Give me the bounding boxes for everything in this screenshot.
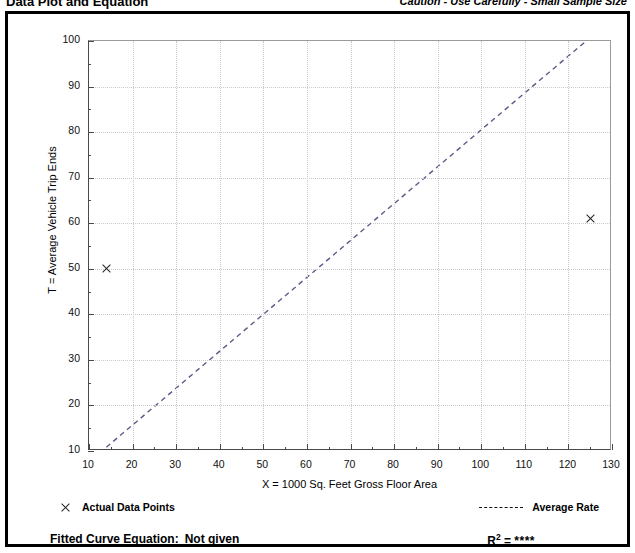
grid-line-vertical (481, 41, 482, 449)
grid-line-horizontal (89, 132, 610, 133)
grid-line-vertical (220, 41, 221, 449)
r-squared-exponent: 2 (496, 532, 501, 542)
x-axis-tick-label: 80 (373, 458, 413, 470)
y-axis-tick (88, 200, 91, 201)
x-axis-tick (547, 447, 548, 450)
grid-line-vertical (133, 41, 134, 449)
x-axis-tick (133, 444, 134, 450)
grid-line-vertical (351, 41, 352, 449)
x-axis-tick-label: 120 (547, 458, 587, 470)
x-axis-tick-label: 60 (286, 458, 326, 470)
x-axis-tick (329, 447, 330, 450)
legend-item-average-rate: Average Rate (479, 501, 599, 513)
y-axis-tick (88, 109, 91, 110)
y-axis-tick (88, 360, 94, 361)
y-axis-tick (88, 405, 94, 406)
grid-line-vertical (176, 41, 177, 449)
grid-line-vertical (438, 41, 439, 449)
y-axis-tick-label: 70 (40, 170, 80, 182)
x-axis-tick (307, 444, 308, 450)
y-axis-tick (88, 246, 91, 247)
y-axis-tick (88, 223, 94, 224)
grid-line-horizontal (89, 223, 610, 224)
y-axis-tick (88, 178, 94, 179)
data-point-marker (585, 213, 596, 224)
x-axis-tick-label: 10 (68, 458, 108, 470)
chart-panel: T = Average Vehicle Trip Ends X = 1000 S… (5, 11, 630, 547)
x-axis-tick (612, 444, 613, 450)
x-axis-title: X = 1000 Sq. Feet Gross Floor Area (88, 478, 611, 490)
x-axis-tick (176, 444, 177, 450)
y-axis-tick (88, 292, 91, 293)
x-axis-tick (89, 444, 90, 450)
x-axis-tick-label: 50 (242, 458, 282, 470)
x-axis-tick-label: 20 (112, 458, 152, 470)
x-axis-tick (481, 444, 482, 450)
y-axis-tick (88, 64, 91, 65)
legend-average-rate-label: Average Rate (532, 501, 599, 513)
chart-legend: Actual Data Points Average Rate (8, 501, 627, 527)
x-axis-tick-label: 40 (199, 458, 239, 470)
y-axis-tick-label: 50 (40, 261, 80, 273)
plot-inner (89, 41, 610, 449)
x-axis-tick (568, 444, 569, 450)
legend-data-points-label: Actual Data Points (82, 501, 175, 513)
x-axis-tick (525, 444, 526, 450)
y-axis-tick-label: 90 (40, 79, 80, 91)
y-axis-tick-label: 10 (40, 443, 80, 455)
x-axis-tick-label: 110 (504, 458, 544, 470)
data-point-marker (101, 263, 112, 274)
page-title: Data Plot and Equation (6, 0, 148, 9)
x-axis-tick (416, 447, 417, 450)
plot-area (88, 40, 611, 450)
grid-line-horizontal (89, 360, 610, 361)
y-axis-tick (88, 269, 94, 270)
grid-line-vertical (263, 41, 264, 449)
x-axis-tick (263, 444, 264, 450)
x-axis-tick-label: 130 (591, 458, 631, 470)
y-axis-tick (88, 428, 91, 429)
r-squared-equals: = (504, 534, 511, 548)
y-axis-tick (88, 155, 91, 156)
grid-line-vertical (568, 41, 569, 449)
x-axis-tick-label: 70 (330, 458, 370, 470)
r-squared-symbol: R (487, 534, 496, 548)
fitted-equation-value: Not given (185, 532, 240, 546)
x-axis-tick (285, 447, 286, 450)
grid-line-horizontal (89, 314, 610, 315)
x-axis-tick-label: 100 (460, 458, 500, 470)
x-axis-tick (351, 444, 352, 450)
x-axis-tick (372, 447, 373, 450)
y-axis-tick-label: 60 (40, 215, 80, 227)
legend-item-data-points: Actual Data Points (60, 501, 175, 513)
y-axis-tick (88, 383, 91, 384)
x-axis-tick (220, 444, 221, 450)
x-marker-icon (60, 502, 71, 513)
y-axis-tick (88, 451, 94, 452)
x-axis-tick (111, 447, 112, 450)
y-axis-tick-label: 40 (40, 306, 80, 318)
dashed-line-icon (479, 507, 523, 508)
x-axis-tick (590, 447, 591, 450)
page-header: Data Plot and Equation Caution - Use Car… (0, 0, 635, 11)
grid-line-horizontal (89, 178, 610, 179)
y-axis-tick (88, 314, 94, 315)
grid-line-vertical (525, 41, 526, 449)
equation-row: Fitted Curve Equation:Not given R2 = ***… (8, 532, 627, 553)
grid-line-horizontal (89, 269, 610, 270)
grid-line-vertical (307, 41, 308, 449)
x-axis-tick (438, 444, 439, 450)
x-axis-tick (198, 447, 199, 450)
x-axis-tick-label: 90 (417, 458, 457, 470)
chart-figure: T = Average Vehicle Trip Ends X = 1000 S… (8, 14, 627, 544)
caution-note: Caution - Use Carefully - Small Sample S… (400, 0, 627, 7)
y-axis-tick-label: 80 (40, 124, 80, 136)
x-axis-tick (503, 447, 504, 450)
y-axis-tick (88, 132, 94, 133)
r-squared-stars: **** (514, 534, 535, 548)
y-axis-tick-label: 30 (40, 352, 80, 364)
x-axis-tick-label: 30 (155, 458, 195, 470)
fitted-equation-label: Fitted Curve Equation: (50, 532, 179, 546)
fitted-curve-equation: Fitted Curve Equation:Not given (50, 532, 239, 546)
x-axis-tick (242, 447, 243, 450)
